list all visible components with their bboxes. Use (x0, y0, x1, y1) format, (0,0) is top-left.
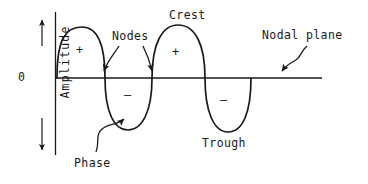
label-trough: Trough (202, 137, 246, 149)
phase-sign-negative-2: – (220, 94, 227, 106)
label-nodes: Nodes (112, 30, 149, 42)
amplitude-axis (42, 12, 56, 155)
label-nodal-plane: Nodal plane (262, 29, 343, 41)
nodal-plane-arrow (282, 46, 307, 71)
phase-arrow (96, 119, 124, 152)
nodes-annotation-arrows (104, 46, 152, 71)
nodes-arrow-left (104, 46, 119, 71)
label-crest: Crest (169, 9, 206, 21)
phase-sign-positive-1: + (76, 44, 83, 56)
axis-zero-label: 0 (18, 71, 25, 83)
label-phase: Phase (74, 157, 111, 169)
phase-sign-negative-1: – (124, 89, 131, 101)
phase-sign-positive-2: + (172, 46, 179, 58)
wave-diagram-figure: 0 Amplitude Nodes Crest Nodal plane Trou… (0, 0, 368, 184)
nodes-arrow-right (143, 46, 152, 71)
axis-amplitude-label: Amplitude (58, 25, 72, 99)
